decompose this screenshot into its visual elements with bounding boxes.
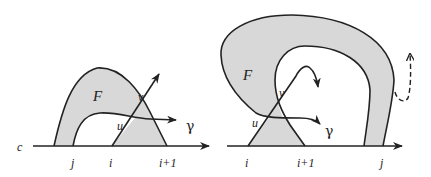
right-tick-i: i — [245, 156, 248, 170]
left-axis-label-c: c — [17, 140, 23, 154]
left-diagram: c F u v γ j i i+1 — [17, 68, 209, 170]
left-gamma-label: γ — [186, 118, 194, 134]
left-tick-j: j — [69, 156, 75, 170]
left-point-u: u — [117, 119, 123, 133]
left-tick-i-plus-1: i+1 — [159, 156, 176, 170]
right-gamma-label: γ — [325, 123, 333, 139]
right-tick-i-plus-1: i+1 — [297, 156, 314, 170]
left-region-label-f: F — [92, 88, 103, 104]
right-point-v: v — [279, 86, 285, 100]
left-point-v: v — [138, 90, 144, 104]
right-point-u: u — [252, 116, 258, 130]
right-dashed-escape-arrow — [395, 54, 411, 101]
right-region-label-f: F — [242, 67, 253, 83]
right-diagram: F u v γ i i+1 j — [221, 15, 411, 170]
right-tick-j: j — [378, 156, 384, 170]
left-tick-i: i — [109, 156, 112, 170]
figure-canvas: c F u v γ j i i+1 F u v γ i i+1 j — [0, 0, 431, 177]
